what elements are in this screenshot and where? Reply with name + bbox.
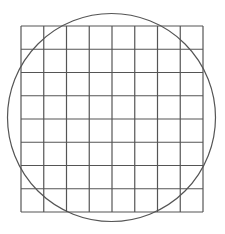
diagram-svg (0, 0, 225, 234)
grid-circle-diagram (0, 0, 225, 234)
square-grid (21, 26, 203, 212)
